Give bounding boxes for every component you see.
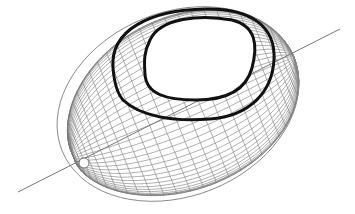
ellipsoid-diagram xyxy=(0,0,355,214)
pole-hole xyxy=(79,158,89,168)
figure xyxy=(0,0,355,214)
